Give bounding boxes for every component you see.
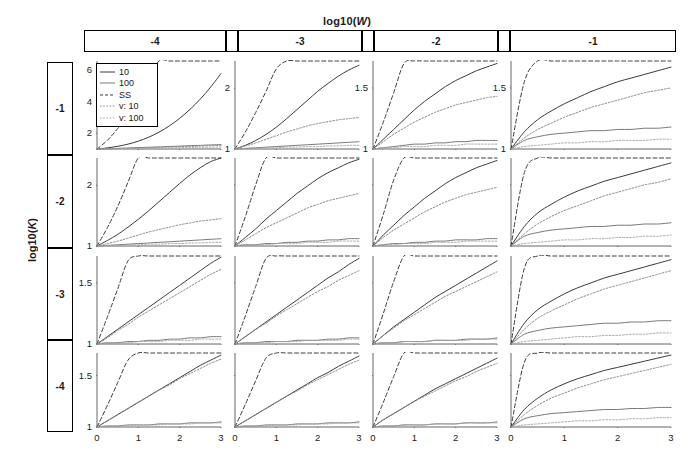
y-tick-label: 1 [208,143,230,154]
panel-plot [234,255,360,345]
series-line-ss [235,60,359,149]
series-line-10 [511,67,671,149]
x-tick-label: 2 [170,432,190,443]
panel-plot [234,157,360,247]
x-conditioning-title-text: log10(W) [323,15,371,27]
series-line-v-10 [235,271,359,344]
series-line-10 [235,258,359,344]
y-tick-label: 1 [70,421,92,432]
y-tick-label: 1 [70,338,92,349]
panel-r0-c2 [372,60,498,150]
panel-r0-c1 [234,60,360,150]
panel-axis-lines [373,256,497,344]
legend-line-sample [99,67,116,77]
panel-r2-c3 [510,255,672,345]
column-strip-label: -1 [511,31,675,51]
legend: 10100SSv: 10v: 100 [96,63,158,127]
series-line-v-10 [97,269,221,344]
panel-axis-lines [373,353,497,427]
series-line-10 [97,158,221,246]
row-strip-0: -1 [47,62,73,155]
series-line-v-10 [235,117,359,149]
panel-r3-c0 [96,352,222,428]
series-line-10 [373,160,497,246]
trellis-figure: log10(W) log10(K) -4-3-2-1 -1-2-3-4 2461… [0,0,694,460]
panel-plot [96,352,222,428]
x-tick-label: 0 [363,432,383,443]
legend-item-3: v: 10 [99,101,154,113]
x-tick-label: 3 [661,432,681,443]
cut-off-header-text [8,0,408,9]
panel-axis-lines [235,61,359,149]
legend-item-label: 100 [119,78,134,88]
x-conditioning-title: log10(W) [0,15,694,27]
panel-plot [510,60,672,150]
panel-plot [372,255,498,345]
y-tick-label: 6 [70,64,92,75]
series-line-v-10 [511,364,671,427]
row-strip-label: -3 [48,249,72,339]
panel-r1-c3 [510,157,672,247]
legend-item-label: 10 [119,67,129,77]
legend-line-sample [99,78,116,88]
panel-plot [96,157,222,247]
panel-plot [372,157,498,247]
series-line-v-100 [235,241,359,246]
series-line-v-100 [511,235,671,246]
y-tick-label: 2 [70,179,92,190]
column-strip-label: -4 [85,31,225,51]
x-tick-label: 0 [501,432,521,443]
column-strip-2: -2 [374,30,498,52]
legend-item-0: 10 [99,66,154,78]
panel-plot [372,60,498,150]
panel-r3-c3 [510,352,672,428]
panel-plot [234,60,360,150]
y-tick-label: 2 [208,82,230,93]
y-conditioning-title: log10(K) [26,175,38,305]
row-strip-3: -4 [47,340,73,432]
series-line-100 [235,142,359,149]
x-tick-label: 1 [266,432,286,443]
legend-line-sample [99,113,116,123]
column-strip-gap-1 [362,30,374,52]
x-tick-label: 1 [128,432,148,443]
series-line-v-10 [511,271,671,344]
column-strip-3: -1 [510,30,676,52]
series-line-v-100 [511,418,671,427]
series-line-v-10 [373,96,497,149]
series-line-100 [97,239,221,246]
series-line-v-10 [373,363,497,427]
series-line-ss [373,157,497,246]
panel-plot [96,255,222,345]
series-line-v-100 [373,339,497,344]
y-tick-label: 1.5 [70,277,92,288]
panel-r3-c2 [372,352,498,428]
series-line-v-10 [373,187,497,246]
row-strip-label: -1 [48,63,72,154]
column-strip-label: -2 [375,31,497,51]
legend-line-sample [99,90,116,100]
series-line-v-100 [235,145,359,149]
series-line-v-10 [235,193,359,246]
series-line-10 [235,159,359,246]
series-line-10 [235,65,359,149]
y-tick-label: 2 [70,127,92,138]
series-line-v-100 [373,423,497,427]
series-line-v-10 [235,360,359,427]
x-tick-label: 2 [308,432,328,443]
y-tick-label: 1 [70,240,92,251]
series-line-v-10 [97,359,221,427]
y-conditioning-title-text: log10(K) [26,218,38,262]
panel-r2-c1 [234,255,360,345]
panel-plot [510,352,672,428]
y-tick-label: 1 [484,143,506,154]
y-tick-label: 1 [346,143,368,154]
x-tick-label: 2 [608,432,628,443]
column-strip-gap-2 [498,30,510,52]
row-strip-1: -2 [47,155,73,248]
legend-line-sample [99,101,116,111]
panel-plot [372,352,498,428]
column-strip-gap-0 [226,30,238,52]
legend-item-label: v: 100 [119,113,144,123]
series-line-ss [373,255,497,344]
